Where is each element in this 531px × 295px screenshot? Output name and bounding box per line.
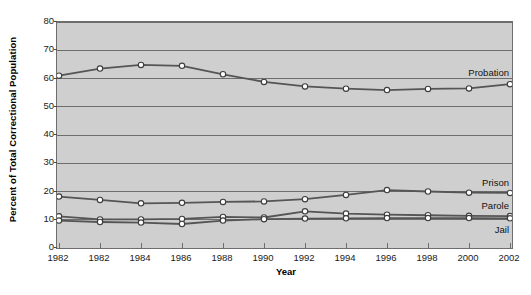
y-tick-label: 0 [32,242,54,252]
y-axis-title-text: Percent of Total Correctional Population [8,36,19,221]
x-tick-label: 1996 [366,252,406,263]
data-point [261,216,266,221]
data-point [384,215,389,220]
y-tick-mark [54,21,57,22]
plot-area: ProbationPrisonParoleJail [56,21,513,249]
x-tick-label: 1998 [407,252,447,263]
data-point [97,219,102,224]
data-point [97,197,102,202]
data-point [261,79,266,84]
x-tick-label: 1994 [325,252,365,263]
series-label-jail: Jail [495,225,509,235]
data-point [384,187,389,192]
series-label-parole: Parole [482,201,509,211]
y-axis-tick-labels: 01020304050607080 [26,0,54,295]
data-point [343,192,348,197]
data-point [425,86,430,91]
series-probation [57,62,512,93]
data-point [507,190,512,195]
series-label-prison: Prison [482,178,509,188]
data-point [97,66,102,71]
x-tick-label: 1988 [202,252,242,263]
y-tick-label: 70 [32,44,54,54]
data-point [507,216,512,221]
series-line-probation [59,65,510,90]
data-point [343,86,348,91]
y-tick-mark [54,78,57,79]
series-line-prison [59,190,510,203]
data-point [261,199,266,204]
data-point [220,199,225,204]
data-point [302,216,307,221]
y-tick-label: 60 [32,73,54,83]
x-tick-label: 1990 [243,252,283,263]
y-tick-mark [54,219,57,220]
y-tick-label: 50 [32,101,54,111]
y-tick-mark [54,162,57,163]
y-tick-label: 80 [32,16,54,26]
x-tick-label: 1992 [284,252,324,263]
y-tick-mark [54,49,57,50]
x-tick-label: 1986 [161,252,201,263]
data-point [220,218,225,223]
y-tick-label: 10 [32,214,54,224]
x-tick-label: 2002 [489,252,529,263]
data-point [302,196,307,201]
chart-figure: Percent of Total Correctional Population… [0,0,531,295]
data-point [466,190,471,195]
y-tick-label: 40 [32,129,54,139]
y-tick-mark [54,106,57,107]
series-label-probation: Probation [468,68,509,78]
data-point [138,62,143,67]
data-point [57,194,62,199]
data-point [179,200,184,205]
data-point [138,220,143,225]
chart-canvas [57,22,512,248]
series-prison [57,187,512,206]
data-point [179,63,184,68]
data-point [425,215,430,220]
data-point [220,72,225,77]
x-tick-label: 1982 [79,252,119,263]
y-tick-mark [54,247,57,248]
data-point [179,221,184,226]
y-tick-label: 30 [32,157,54,167]
data-point [57,73,62,78]
y-tick-label: 20 [32,186,54,196]
x-axis-title: Year [56,266,516,277]
x-axis-title-text: Year [276,266,296,277]
data-point [343,216,348,221]
x-tick-label: 1984 [120,252,160,263]
data-point [302,84,307,89]
data-point [425,189,430,194]
y-axis-title: Percent of Total Correctional Population [0,0,26,258]
data-point [57,218,62,223]
y-tick-mark [54,191,57,192]
data-point [507,81,512,86]
data-point [466,86,471,91]
x-tick-label: 1982 [38,252,78,263]
data-point [302,209,307,214]
data-point [384,87,389,92]
series-jail [57,215,512,226]
y-tick-mark [54,134,57,135]
x-tick-label: 2000 [448,252,488,263]
data-point [466,215,471,220]
data-point [138,201,143,206]
